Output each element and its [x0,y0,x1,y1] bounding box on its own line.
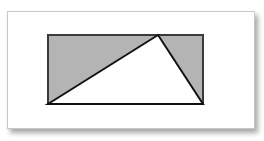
geometry-diagram [0,0,264,141]
